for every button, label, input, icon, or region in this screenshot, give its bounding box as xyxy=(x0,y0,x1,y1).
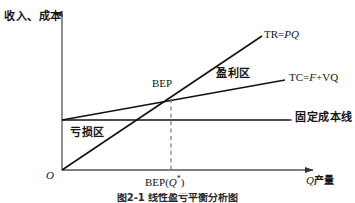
break-even-chart-figure: 收入、成本 TR=PQ 盈利区 TC=F+VQ BEP 固定成本线 亏损区 O … xyxy=(0,0,355,203)
x-axis-title: Q产量 xyxy=(306,175,334,186)
total-cost-label-prefix: TC= xyxy=(289,71,309,83)
origin-label: O xyxy=(46,170,54,181)
bep-axis-label-suffix: ) xyxy=(181,176,185,188)
y-axis-title: 收入、成本 xyxy=(4,11,62,22)
bep-point-label: BEP xyxy=(152,78,172,89)
total-cost-label-var: F xyxy=(309,71,316,83)
fixed-cost-line-label: 固定成本线 xyxy=(295,112,353,123)
total-revenue-label-var: PQ xyxy=(284,28,299,40)
total-cost-label-suffix: +VQ xyxy=(316,71,338,83)
profit-zone-label: 盈利区 xyxy=(216,68,251,79)
bep-axis-label-var: Q xyxy=(169,176,177,188)
bep-axis-label: BEP(Q*) xyxy=(145,175,184,188)
bep-axis-label-prefix: BEP( xyxy=(145,176,169,188)
loss-zone-label: 亏损区 xyxy=(70,127,105,138)
total-revenue-line xyxy=(62,36,262,170)
x-axis-title-cjk: 产量 xyxy=(314,175,334,186)
total-revenue-label-prefix: TR= xyxy=(264,28,284,40)
total-revenue-label: TR=PQ xyxy=(264,29,299,40)
total-cost-line xyxy=(62,80,285,120)
figure-caption: 图2-1 线性盈亏平衡分析图 xyxy=(0,193,355,203)
total-cost-label: TC=F+VQ xyxy=(289,72,338,83)
x-axis-symbol: Q xyxy=(306,174,314,186)
